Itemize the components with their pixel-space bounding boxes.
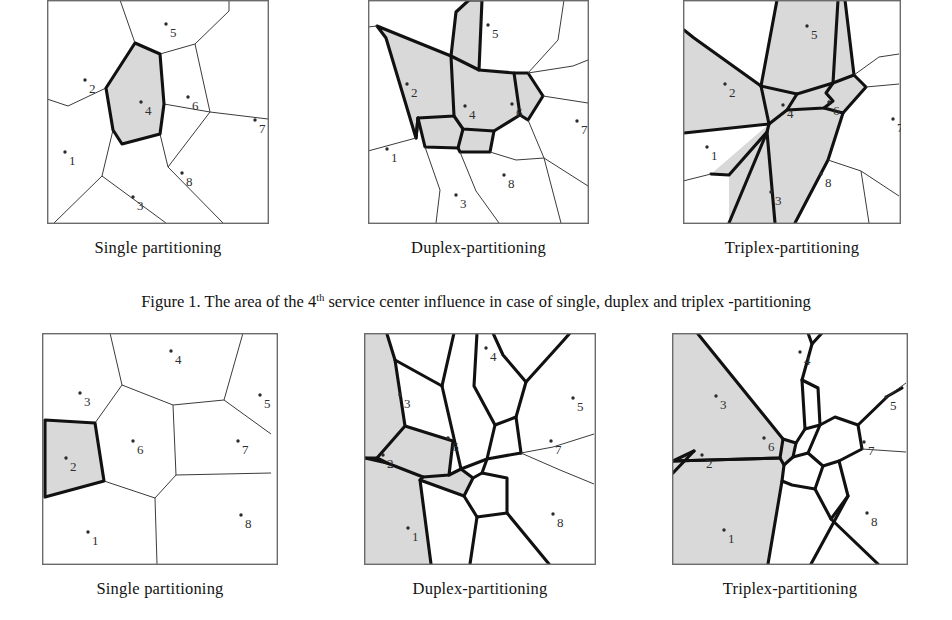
svg-text:6: 6 <box>768 439 775 454</box>
svg-text:8: 8 <box>245 516 252 531</box>
voronoi-top-triplex: 1 2 3 4 5 6 7 8 <box>683 0 901 224</box>
voronoi-top-duplex: 1 2 3 4 5 6 7 8 <box>368 0 589 224</box>
svg-text:1: 1 <box>69 153 76 168</box>
svg-text:4: 4 <box>469 107 476 122</box>
panel-bottom-duplex: 1 2 3 4 5 6 7 8 Duplex-partitioning <box>364 333 596 565</box>
svg-text:4: 4 <box>145 103 152 118</box>
panel-top-duplex: 1 2 3 4 5 6 7 8 Duplex-partitioning <box>368 0 589 224</box>
svg-text:7: 7 <box>897 120 901 135</box>
svg-text:1: 1 <box>92 533 99 548</box>
svg-text:5: 5 <box>811 27 818 42</box>
svg-text:3: 3 <box>84 394 91 409</box>
voronoi-bottom-single: 1 2 3 4 5 6 7 8 <box>42 333 278 565</box>
svg-text:4: 4 <box>175 352 182 367</box>
svg-text:6: 6 <box>452 439 459 454</box>
svg-text:2: 2 <box>387 456 394 471</box>
svg-text:5: 5 <box>170 25 177 40</box>
svg-text:8: 8 <box>508 176 515 191</box>
svg-text:7: 7 <box>581 122 588 137</box>
panel-bottom-single: 1 2 3 4 5 6 7 8 Single partitioning <box>42 333 278 565</box>
svg-text:2: 2 <box>411 85 418 100</box>
panel-bottom-triplex: 1 2 3 4 5 6 7 8 Triplex-partitioning <box>672 333 908 565</box>
panel-caption-bottom-triplex: Triplex-partitioning <box>672 579 908 599</box>
svg-text:5: 5 <box>577 399 584 414</box>
panel-caption-top-single: Single partitioning <box>47 238 269 258</box>
voronoi-bottom-duplex: 1 2 3 4 5 6 7 8 <box>364 333 596 565</box>
svg-text:4: 4 <box>787 106 794 121</box>
voronoi-top-single: 1 2 3 4 5 6 7 8 <box>47 0 269 224</box>
panel-caption-bottom-duplex: Duplex-partitioning <box>364 579 596 599</box>
svg-text:5: 5 <box>492 26 499 41</box>
svg-text:8: 8 <box>186 174 193 189</box>
panel-caption-top-duplex: Duplex-partitioning <box>368 238 589 258</box>
svg-text:7: 7 <box>555 442 562 457</box>
figure-caption-prefix: Figure 1. The area of the <box>141 292 308 311</box>
svg-text:4: 4 <box>490 349 497 364</box>
svg-text:8: 8 <box>871 514 878 529</box>
panel-caption-bottom-single: Single partitioning <box>42 579 278 599</box>
figure-caption: Figure 1. The area of the 4th service ce… <box>0 292 952 312</box>
svg-text:2: 2 <box>89 81 96 96</box>
svg-text:2: 2 <box>70 459 77 474</box>
svg-text:6: 6 <box>192 98 199 113</box>
figure-page: 1 2 3 4 5 6 7 8 Single partitioning <box>0 0 952 620</box>
figure-caption-rest: service center influence in case of sing… <box>324 292 811 311</box>
svg-text:1: 1 <box>412 529 419 544</box>
svg-text:1: 1 <box>391 150 398 165</box>
svg-text:3: 3 <box>460 196 467 211</box>
panel-top-triplex: 1 2 3 4 5 6 7 8 Triplex-partitioning <box>683 0 901 224</box>
svg-text:3: 3 <box>775 193 782 208</box>
shaded-cell-1 <box>673 458 784 564</box>
panel-caption-top-triplex: Triplex-partitioning <box>683 238 901 258</box>
panel-top-single: 1 2 3 4 5 6 7 8 Single partitioning <box>47 0 269 224</box>
figure-row-top: 1 2 3 4 5 6 7 8 Single partitioning <box>0 0 952 285</box>
svg-text:3: 3 <box>137 198 144 213</box>
svg-text:5: 5 <box>890 398 897 413</box>
voronoi-bottom-triplex: 1 2 3 4 5 6 7 8 <box>672 333 908 565</box>
svg-text:8: 8 <box>825 175 832 190</box>
svg-text:1: 1 <box>711 148 718 163</box>
svg-text:2: 2 <box>729 85 736 100</box>
svg-text:6: 6 <box>516 105 523 120</box>
svg-text:7: 7 <box>868 443 875 458</box>
svg-text:5: 5 <box>264 396 271 411</box>
svg-text:1: 1 <box>728 531 735 546</box>
figure-row-bottom: 1 2 3 4 5 6 7 8 Single partitioning <box>0 333 952 620</box>
svg-text:4: 4 <box>804 353 811 368</box>
svg-text:6: 6 <box>137 442 144 457</box>
svg-text:2: 2 <box>706 456 713 471</box>
svg-text:3: 3 <box>720 397 727 412</box>
svg-text:3: 3 <box>404 396 411 411</box>
svg-text:8: 8 <box>557 515 564 530</box>
svg-text:7: 7 <box>259 121 266 136</box>
svg-text:6: 6 <box>833 103 840 118</box>
svg-text:7: 7 <box>242 442 249 457</box>
